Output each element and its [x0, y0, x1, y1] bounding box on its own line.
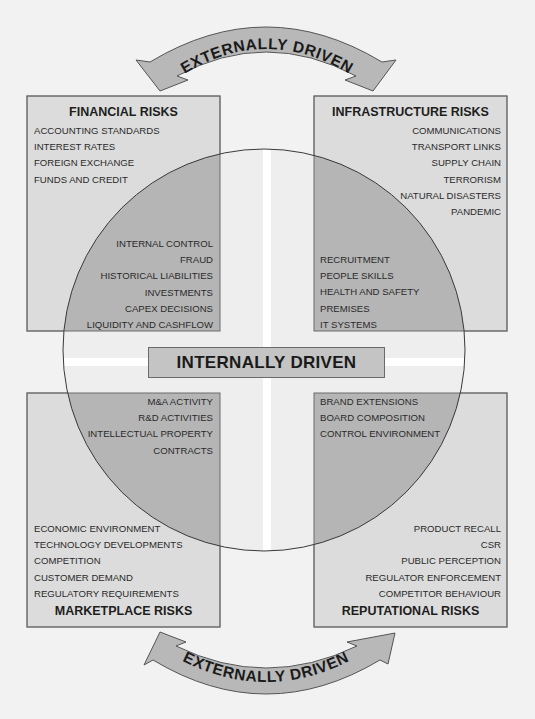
list-item: BRAND EXTENSIONS: [320, 394, 440, 410]
list-item: REGULATORY REQUIREMENTS: [34, 586, 183, 602]
list-item: CAPEX DECISIONS: [87, 301, 213, 317]
list-item: ECONOMIC ENVIRONMENT: [34, 521, 183, 537]
list-item: TRANSPORT LINKS: [400, 139, 501, 155]
list-item: FUNDS AND CREDIT: [34, 172, 160, 188]
reputational-external-list: PRODUCT RECALL CSR PUBLIC PERCEPTION REG…: [365, 521, 501, 602]
list-item: TECHNOLOGY DEVELOPMENTS: [34, 537, 183, 553]
list-item: INTEREST RATES: [34, 139, 160, 155]
list-item: TERRORISM: [400, 172, 501, 188]
list-item: LIQUIDITY AND CASHFLOW: [87, 317, 213, 333]
financial-risks-title: FINANCIAL RISKS: [27, 105, 220, 119]
list-item: INVESTMENTS: [87, 285, 213, 301]
list-item: PRODUCT RECALL: [365, 521, 501, 537]
list-item: PEOPLE SKILLS: [320, 268, 420, 284]
financial-external-list: ACCOUNTING STANDARDS INTEREST RATES FORE…: [34, 123, 160, 188]
infrastructure-external-list: COMMUNICATIONS TRANSPORT LINKS SUPPLY CH…: [400, 123, 501, 220]
reputational-internal-list: BRAND EXTENSIONS BOARD COMPOSITION CONTR…: [320, 394, 440, 443]
list-item: FOREIGN EXCHANGE: [34, 155, 160, 171]
list-item: NATURAL DISASTERS: [400, 188, 501, 204]
list-item: CONTRACTS: [88, 443, 213, 459]
list-item: COMPETITOR BEHAVIOUR: [365, 586, 501, 602]
marketplace-internal-list: M&A ACTIVITY R&D ACTIVITIES INTELLECTUAL…: [88, 394, 213, 459]
list-item: ACCOUNTING STANDARDS: [34, 123, 160, 139]
financial-internal-list: INTERNAL CONTROL FRAUD HISTORICAL LIABIL…: [87, 236, 213, 333]
list-item: CSR: [365, 537, 501, 553]
list-item: INTERNAL CONTROL: [87, 236, 213, 252]
list-item: FRAUD: [87, 252, 213, 268]
list-item: COMPETITION: [34, 553, 183, 569]
infrastructure-internal-list: RECRUITMENT PEOPLE SKILLS HEALTH AND SAF…: [320, 252, 420, 333]
reputational-risks-title: REPUTATIONAL RISKS: [314, 604, 507, 618]
list-item: INTELLECTUAL PROPERTY: [88, 426, 213, 442]
internally-driven-label: INTERNALLY DRIVEN: [148, 347, 385, 378]
list-item: IT SYSTEMS: [320, 317, 420, 333]
list-item: COMMUNICATIONS: [400, 123, 501, 139]
infrastructure-risks-title: INFRASTRUCTURE RISKS: [314, 105, 507, 119]
list-item: CONTROL ENVIRONMENT: [320, 426, 440, 442]
list-item: R&D ACTIVITIES: [88, 410, 213, 426]
marketplace-external-list: ECONOMIC ENVIRONMENT TECHNOLOGY DEVELOPM…: [34, 521, 183, 602]
list-item: RECRUITMENT: [320, 252, 420, 268]
list-item: PANDEMIC: [400, 204, 501, 220]
list-item: PUBLIC PERCEPTION: [365, 553, 501, 569]
list-item: CUSTOMER DEMAND: [34, 570, 183, 586]
list-item: HEALTH AND SAFETY: [320, 284, 420, 300]
list-item: SUPPLY CHAIN: [400, 155, 501, 171]
list-item: REGULATOR ENFORCEMENT: [365, 570, 501, 586]
list-item: PREMISES: [320, 301, 420, 317]
list-item: BOARD COMPOSITION: [320, 410, 440, 426]
marketplace-risks-title: MARKETPLACE RISKS: [27, 604, 220, 618]
list-item: HISTORICAL LIABILITIES: [87, 268, 213, 284]
list-item: M&A ACTIVITY: [88, 394, 213, 410]
